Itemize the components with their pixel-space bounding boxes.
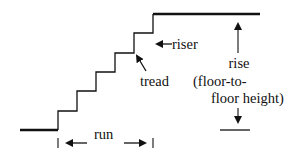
run-label: run (94, 126, 113, 142)
riser-label: riser (172, 36, 198, 52)
tread-label: tread (140, 73, 169, 89)
tread-arrow-icon (137, 56, 146, 71)
rise-label-line2: (floor-to- (193, 73, 247, 89)
staircase-profile (58, 14, 153, 130)
rise-label-line1: rise (211, 55, 267, 71)
rise-label-line3: floor height) (211, 90, 284, 106)
stair-diagram: riser tread rise (floor-to- floor height… (0, 0, 302, 161)
